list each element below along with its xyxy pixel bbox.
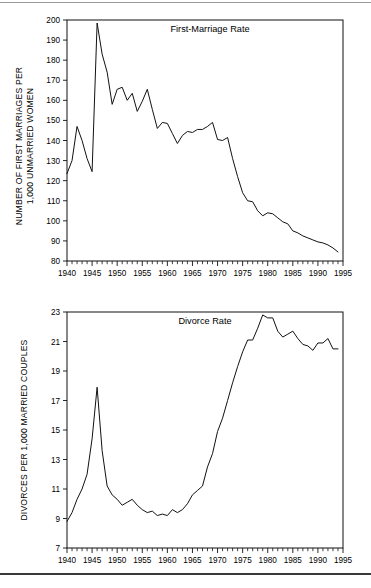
- x-axis-tick-label: 1990: [309, 556, 328, 565]
- x-axis-tick-label: 1965: [183, 556, 202, 565]
- x-axis-tick-label: 1950: [108, 556, 127, 565]
- x-axis-tick-label: 1965: [183, 269, 202, 278]
- y-axis-tick-label: 140: [46, 137, 60, 146]
- chart-divorce-rate: 1940194519501955196019651970197519801985…: [0, 300, 371, 570]
- y-axis-tick-label: 23: [51, 308, 61, 317]
- plot-frame: [67, 20, 343, 261]
- divorce-rate-plot: 1940194519501955196019651970197519801985…: [0, 300, 371, 570]
- y-axis-tick-label: 100: [46, 217, 60, 226]
- y-axis-tick-label: 13: [51, 456, 61, 465]
- x-axis-tick-label: 1990: [309, 269, 328, 278]
- chart-title: First-Marriage Rate: [170, 24, 249, 34]
- x-axis-tick-label: 1985: [284, 556, 303, 565]
- x-axis-tick-label: 1975: [234, 556, 253, 565]
- bottom-divider-rule: [0, 573, 371, 575]
- x-axis-tick-label: 1955: [133, 556, 152, 565]
- chart-first-marriage-rate: 1940194519501955196019651970197519801985…: [0, 8, 371, 288]
- top-divider-rule: [0, 2, 371, 3]
- x-axis-tick-label: 1940: [58, 269, 77, 278]
- y-axis-tick-label: 21: [51, 338, 61, 347]
- y-axis-tick-label: 9: [55, 515, 60, 524]
- y-axis-tick-label: 200: [46, 16, 60, 25]
- x-axis-tick-label: 1980: [259, 269, 278, 278]
- x-axis-tick-label: 1960: [158, 269, 177, 278]
- plot-frame: [67, 312, 343, 548]
- y-axis-tick-label: 19: [51, 367, 61, 376]
- y-axis-title: DIVORCES PER 1,000 MARRIED COUPLES: [19, 339, 29, 520]
- x-axis-tick-label: 1945: [83, 269, 102, 278]
- x-axis-tick-label: 1940: [58, 556, 77, 565]
- y-axis-tick-label: 7: [55, 544, 60, 553]
- chart-title: Divorce Rate: [178, 316, 231, 326]
- x-axis-tick-label: 1995: [334, 269, 353, 278]
- x-axis-tick-label: 1995: [334, 556, 353, 565]
- y-axis-title: NUMBER OF FIRST MARRIAGES PER: [14, 67, 24, 225]
- y-axis-tick-label: 190: [46, 36, 60, 45]
- x-axis-tick-label: 1970: [208, 269, 227, 278]
- y-axis-tick-label: 120: [46, 177, 60, 186]
- x-axis-tick-label: 1985: [284, 269, 303, 278]
- y-axis-tick-label: 150: [46, 116, 60, 125]
- y-axis-tick-label: 11: [52, 485, 61, 494]
- y-axis-tick-label: 17: [51, 397, 61, 406]
- y-axis-tick-label: 130: [46, 157, 60, 166]
- figure-page: 1940194519501955196019651970197519801985…: [0, 0, 371, 588]
- y-axis-tick-label: 110: [47, 197, 60, 206]
- x-axis-tick-label: 1980: [259, 556, 278, 565]
- data-series-line: [67, 23, 338, 252]
- y-axis-tick-label: 180: [46, 56, 60, 65]
- y-axis-tick-label: 80: [51, 257, 61, 266]
- y-axis-tick-label: 160: [46, 96, 60, 105]
- first-marriage-rate-plot: 1940194519501955196019651970197519801985…: [0, 8, 371, 288]
- x-axis-tick-label: 1945: [83, 556, 102, 565]
- x-axis-tick-label: 1950: [108, 269, 127, 278]
- x-axis-tick-label: 1970: [208, 556, 227, 565]
- x-axis-tick-label: 1955: [133, 269, 152, 278]
- x-axis-tick-label: 1975: [234, 269, 253, 278]
- data-series-line: [67, 315, 338, 522]
- x-axis-tick-label: 1960: [158, 556, 177, 565]
- y-axis-tick-label: 170: [46, 76, 60, 85]
- y-axis-tick-label: 15: [51, 426, 61, 435]
- y-axis-title: 1,000 UNMARRIED WOMEN: [25, 88, 35, 204]
- y-axis-tick-label: 90: [51, 237, 61, 246]
